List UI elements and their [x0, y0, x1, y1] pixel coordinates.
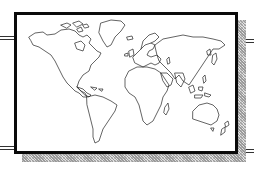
north-america-outline: [29, 29, 101, 97]
british-isles-outline: [125, 49, 134, 57]
world-map-illustration: [17, 15, 235, 151]
arctic-islands-outline: [61, 21, 89, 32]
australia-outline: [193, 103, 219, 125]
right-top-connector-line-1: [246, 39, 254, 40]
tasmania-outline: [211, 128, 214, 131]
south-america-outline: [87, 95, 117, 143]
hudson-bay-outline: [75, 41, 85, 51]
asia-outline: [155, 35, 225, 85]
africa-outline: [125, 67, 169, 125]
right-top-connector-line-2: [246, 42, 254, 43]
caspian-sea-outline: [167, 57, 170, 64]
philippines-outline: [203, 75, 206, 83]
iceland-outline: [127, 36, 133, 40]
madagascar-outline: [164, 103, 169, 115]
greenland-outline: [99, 20, 125, 47]
japan-outline: [207, 49, 217, 65]
new-zealand-outline: [221, 121, 229, 135]
central-america-outline: [77, 87, 103, 97]
map-frame: [14, 12, 238, 154]
right-bottom-connector-line-2: [246, 152, 254, 153]
indonesia-outline: [189, 85, 211, 98]
right-bottom-connector-line-1: [246, 149, 254, 150]
india-outline: [175, 73, 185, 87]
